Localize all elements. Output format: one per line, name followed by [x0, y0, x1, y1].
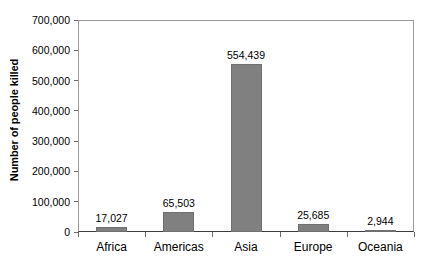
y-tick-label: 600,000	[0, 44, 70, 56]
x-tick-mark	[347, 232, 348, 237]
y-tick-label: 400,000	[0, 105, 70, 117]
bar-value-label: 2,944	[335, 215, 425, 227]
bar-value-label: 17,027	[67, 212, 157, 224]
bar-chart: Number of people killed 0100,000200,0003…	[0, 0, 430, 267]
bar	[163, 212, 194, 232]
x-tick-mark	[212, 232, 213, 237]
y-tick-label: 700,000	[0, 14, 70, 26]
x-tick-mark	[145, 232, 146, 237]
bar	[231, 64, 262, 232]
x-tick-mark	[280, 232, 281, 237]
bar	[298, 224, 329, 232]
x-tick-mark	[414, 232, 415, 237]
bar	[96, 227, 127, 232]
y-tick-label: 0	[0, 226, 70, 238]
y-tick-label: 500,000	[0, 75, 70, 87]
category-label: Oceania	[335, 240, 425, 254]
y-tick-label: 200,000	[0, 165, 70, 177]
bar-value-label: 554,439	[201, 49, 291, 61]
bar-value-label: 65,503	[134, 197, 224, 209]
x-tick-mark	[78, 232, 79, 237]
bar	[365, 230, 396, 232]
y-tick-label: 100,000	[0, 196, 70, 208]
y-tick-label: 300,000	[0, 135, 70, 147]
